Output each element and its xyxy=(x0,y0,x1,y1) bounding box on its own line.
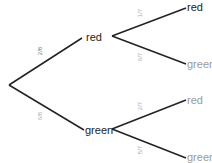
tree-lines xyxy=(0,0,212,163)
prob-stage1-red: 2/8 xyxy=(37,47,43,55)
prob-green-red: 2/7 xyxy=(137,102,143,110)
leaf-green-green: green xyxy=(187,151,212,163)
prob-red-green: 6/7 xyxy=(137,53,143,61)
leaf-red-green: green xyxy=(187,58,212,70)
leaf-red-red: red xyxy=(187,1,203,13)
prob-stage1-green: 6/8 xyxy=(37,112,43,120)
leaf-green-red: red xyxy=(187,94,203,106)
node-green: green xyxy=(85,124,113,136)
prob-red-red: 1/7 xyxy=(137,9,143,17)
node-red: red xyxy=(86,31,102,43)
prob-green-green: 5/7 xyxy=(137,146,143,154)
